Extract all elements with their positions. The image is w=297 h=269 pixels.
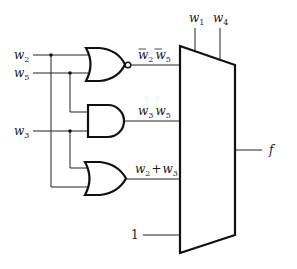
mux-circuit-diagram: w2 w5 w3 w2w5 w3w5 w2+w3 [0,0,297,269]
junction-dot-w3 [68,129,72,133]
svg-text:w3w5: w3w5 [138,104,171,120]
and-gate [88,105,124,137]
label-w3-w5: w3w5 [138,104,171,120]
input-label-w3: w3 [14,124,29,140]
input-label-w5: w5 [14,66,29,82]
output-label-f: f [268,143,276,157]
nor-inversion-bubble [125,62,131,68]
select-label-w1: w1 [189,11,204,27]
wire-w5-branch [70,73,88,112]
multiplexer [180,46,235,253]
svg-text:w2: w2 [14,48,29,64]
label-w2-plus-w3: w2+w3 [135,162,178,178]
svg-text:1: 1 [131,228,139,242]
svg-text:w1: w1 [189,11,204,27]
nor-gate [86,48,131,81]
svg-text:w3: w3 [14,124,29,140]
select-label-w4: w4 [213,11,228,27]
input-label-w2: w2 [14,48,29,64]
or-gate [85,162,126,195]
svg-text:w5: w5 [14,66,29,82]
svg-text:w2w5: w2w5 [138,48,171,64]
label-constant-1: 1 [131,228,139,242]
junction-dot-w2 [49,53,53,57]
svg-text:w2+w3: w2+w3 [135,162,178,178]
junction-dot-w5 [68,71,72,75]
label-not-w2-not-w5: w2w5 [138,48,171,64]
svg-text:w4: w4 [213,11,228,27]
